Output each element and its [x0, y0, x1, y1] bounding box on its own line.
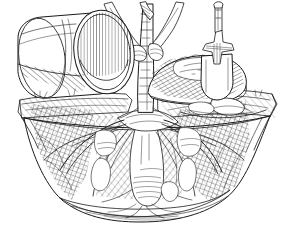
bucket [14, 6, 140, 101]
illustration-canvas: bucket sapling root ball planting hole s… [0, 0, 283, 230]
tree-planting-drawing: bucket sapling root ball planting hole s… [0, 0, 283, 230]
